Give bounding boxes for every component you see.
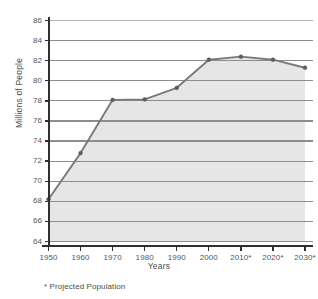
x-axis-title: Years	[0, 261, 318, 271]
area-fill	[49, 57, 306, 242]
y-tick-label-78: 78	[20, 97, 42, 105]
data-point-2010p	[239, 55, 243, 59]
data-point-1960	[79, 151, 83, 155]
y-tick-label-66: 66	[20, 217, 42, 225]
y-tick-label-76: 76	[20, 117, 42, 125]
y-tick-label-68: 68	[20, 197, 42, 205]
y-tick-label-72: 72	[20, 157, 42, 165]
y-tick-label-74: 74	[20, 137, 42, 145]
y-tick-label-86: 86	[20, 17, 42, 25]
y-tick-label-84: 84	[20, 37, 42, 45]
y-tick-label-64: 64	[20, 238, 42, 246]
population-line-chart: Millions of People 868482807876747270686…	[0, 0, 318, 299]
data-point-2030p	[303, 66, 307, 70]
y-tick-label-70: 70	[20, 177, 42, 185]
data-point-2000	[207, 58, 211, 62]
footnote-projected-population: * Projected Population	[44, 282, 125, 291]
data-point-1990	[175, 86, 179, 90]
y-tick-label-80: 80	[20, 77, 42, 85]
data-point-1970	[111, 98, 115, 102]
x-axis-ticks-group	[49, 247, 306, 251]
data-point-2020p	[271, 58, 275, 62]
y-tick-label-82: 82	[20, 57, 42, 65]
data-point-1980	[143, 97, 147, 101]
